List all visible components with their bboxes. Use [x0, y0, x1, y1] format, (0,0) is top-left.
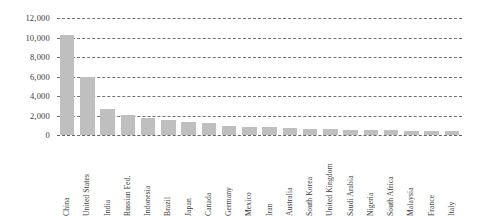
- bar-slot: [158, 18, 178, 135]
- x-axis-tick: India: [98, 137, 118, 216]
- x-axis-tick-label: Italy: [448, 154, 456, 216]
- y-axis-tick-label: 8,000: [30, 53, 50, 62]
- x-axis-tick: Iran: [260, 137, 280, 216]
- bar-slot: [98, 18, 118, 135]
- x-axis-tick: China: [57, 137, 77, 216]
- x-axis-tick-label: Malaysia: [407, 154, 415, 216]
- bar[interactable]: [424, 131, 439, 135]
- bar-slot: [77, 18, 97, 135]
- x-axis-tick: Japan: [179, 137, 199, 216]
- gridline: [57, 135, 462, 136]
- x-axis-tick-label: Japan: [185, 137, 193, 216]
- bar-slot: [118, 18, 138, 135]
- bar-slot: [442, 18, 462, 135]
- bars-container: [57, 18, 462, 135]
- x-axis-tick: South Africa: [381, 137, 401, 216]
- bar[interactable]: [242, 127, 257, 135]
- bar-slot: [219, 18, 239, 135]
- x-axis-tick-label: China: [63, 137, 71, 216]
- bar[interactable]: [181, 122, 196, 135]
- bar-slot: [179, 18, 199, 135]
- x-axis-tick-label: Canada: [205, 154, 213, 216]
- x-axis-tick-label: Mexico: [245, 154, 253, 216]
- bar[interactable]: [121, 115, 136, 135]
- bar-slot: [280, 18, 300, 135]
- y-axis-tick-label: 4,000: [30, 92, 50, 101]
- x-axis-tick: Russian Fed.: [118, 137, 138, 216]
- bar-slot: [381, 18, 401, 135]
- x-axis-tick-label: India: [104, 137, 112, 216]
- bar-slot: [361, 18, 381, 135]
- bar-slot: [401, 18, 421, 135]
- bar[interactable]: [343, 130, 358, 135]
- bar-slot: [300, 18, 320, 135]
- bar[interactable]: [262, 127, 277, 135]
- bar[interactable]: [202, 123, 217, 135]
- bar[interactable]: [303, 129, 318, 135]
- bar[interactable]: [141, 118, 156, 135]
- x-axis-tick: Canada: [199, 137, 219, 216]
- x-axis-tick-label: South Africa: [387, 137, 395, 216]
- bar[interactable]: [80, 77, 95, 135]
- bar-chart: 02,0004,0006,0008,00010,00012,000 ChinaU…: [0, 0, 489, 216]
- bar[interactable]: [364, 130, 379, 135]
- x-axis-tick: Saudi Arabia: [341, 137, 361, 216]
- x-axis-tick: Nigeria: [361, 137, 381, 216]
- bar[interactable]: [100, 109, 115, 135]
- x-axis-tick: United Kingdom: [320, 137, 340, 216]
- y-axis-tick-label: 10,000: [25, 33, 50, 42]
- x-axis-tick-label: France: [428, 137, 436, 216]
- x-axis-tick: Mexico: [239, 137, 259, 216]
- bar-slot: [239, 18, 259, 135]
- x-axis-tick-label: United States: [83, 154, 91, 216]
- x-axis-tick: Australia: [280, 137, 300, 216]
- bar-slot: [138, 18, 158, 135]
- x-axis-tick-label: Russian Fed.: [124, 154, 132, 216]
- x-axis-tick: South Korea: [300, 137, 320, 216]
- bar-slot: [320, 18, 340, 135]
- x-axis-tick-label: Brazil: [164, 154, 172, 216]
- x-axis-tick: Malaysia: [401, 137, 421, 216]
- bar-slot: [260, 18, 280, 135]
- bar[interactable]: [404, 131, 419, 135]
- x-axis-tick-label: Nigeria: [367, 154, 375, 216]
- y-axis: 02,0004,0006,0008,00010,00012,000: [0, 0, 55, 153]
- x-axis-tick-label: South Korea: [306, 137, 314, 216]
- x-axis-tick-label: Saudi Arabia: [347, 137, 355, 216]
- bar[interactable]: [445, 131, 460, 135]
- bar[interactable]: [60, 35, 75, 135]
- bar[interactable]: [323, 129, 338, 135]
- plot-area: [57, 18, 462, 135]
- bar-slot: [57, 18, 77, 135]
- bar[interactable]: [384, 130, 399, 135]
- y-axis-tick-label: 6,000: [30, 72, 50, 81]
- x-axis-tick-label: United Kingdom: [326, 154, 334, 216]
- x-axis-tick-label: Indonesia: [144, 137, 152, 216]
- x-axis-tick-label: Iran: [266, 137, 274, 216]
- y-axis-tick-label: 0: [46, 131, 50, 140]
- x-axis-tick: Germany: [219, 137, 239, 216]
- x-axis: ChinaUnited StatesIndiaRussian Fed.Indon…: [57, 137, 462, 216]
- bar-slot: [422, 18, 442, 135]
- x-axis-tick: Indonesia: [138, 137, 158, 216]
- bar-slot: [199, 18, 219, 135]
- bar[interactable]: [283, 128, 298, 135]
- bar-slot: [341, 18, 361, 135]
- x-axis-tick: Brazil: [158, 137, 178, 216]
- y-axis-tick-label: 12,000: [25, 14, 50, 23]
- x-axis-tick-label: Australia: [286, 154, 294, 216]
- y-axis-tick-label: 2,000: [30, 111, 50, 120]
- x-axis-tick: United States: [77, 137, 97, 216]
- x-axis-tick: Italy: [442, 137, 462, 216]
- bar[interactable]: [161, 120, 176, 135]
- bar[interactable]: [222, 126, 237, 135]
- x-axis-tick-label: Germany: [225, 137, 233, 216]
- x-axis-tick: France: [422, 137, 442, 216]
